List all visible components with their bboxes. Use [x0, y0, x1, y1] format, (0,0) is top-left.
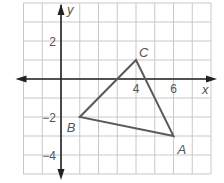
- y-tick-label: −2: [42, 111, 56, 125]
- x-axis-label: x: [201, 82, 209, 97]
- coordinate-plane-figure: 462−2−4 ABC x y: [0, 0, 224, 183]
- vertex-label-b: B: [67, 120, 76, 135]
- x-tick-label: 6: [170, 82, 177, 96]
- y-axis-up-arrow-icon: [58, 4, 65, 15]
- vertex-label-a: A: [177, 142, 187, 157]
- y-tick-label: −4: [42, 149, 56, 163]
- triangle-abc: ABC: [67, 45, 186, 157]
- axes: 462−2−4: [16, 4, 218, 180]
- vertex-label-c: C: [139, 45, 149, 60]
- x-tick-label: 4: [133, 82, 140, 96]
- y-tick-label: 2: [49, 35, 56, 49]
- coordinate-plane: 462−2−4 ABC x y: [0, 0, 224, 183]
- y-axis-label: y: [66, 2, 75, 17]
- x-axis-left-arrow-icon: [16, 76, 27, 83]
